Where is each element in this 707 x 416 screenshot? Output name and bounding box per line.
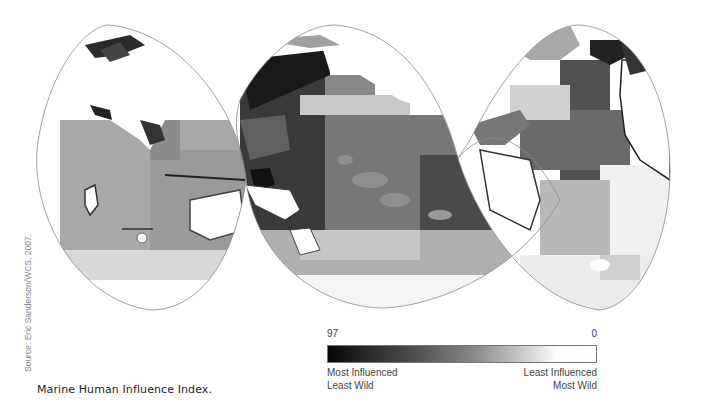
figure-caption: Marine Human Influence Index. — [37, 383, 212, 396]
source-credit: Source: Eric Sanderson/WCS, 2007. — [23, 234, 33, 372]
lobe-indian-ocean — [30, 20, 260, 320]
legend-label-most-wild: Most Wild — [553, 380, 597, 392]
legend-label-least-wild: Least Wild — [327, 380, 374, 392]
marine-influence-map — [0, 0, 707, 320]
legend-gradient-bar — [327, 345, 597, 363]
legend-label-most-influenced: Most Influenced — [327, 367, 398, 379]
legend-max-value: 97 — [327, 328, 338, 339]
legend-min-value: 0 — [591, 328, 597, 339]
legend-label-least-influenced: Least Influenced — [524, 367, 597, 379]
legend: 97 0 Most Influenced Least Wild Least In… — [327, 326, 597, 396]
